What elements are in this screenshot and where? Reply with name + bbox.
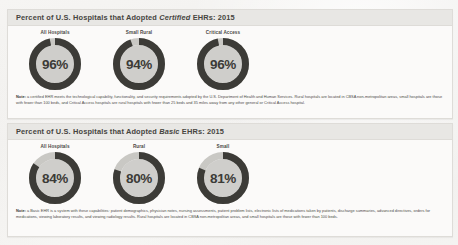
donut-value: 80% <box>112 151 166 205</box>
donut-cell-small-rural-certified: Small Rural 94% <box>106 30 172 91</box>
donut-cell-all-hospitals-certified: All Hospitals 96% <box>22 30 88 91</box>
donut-value: 84% <box>28 151 82 205</box>
panel-certified-title-prefix: Percent of U.S. Hospitals that Adopted <box>16 13 159 22</box>
donut-cell-rural-basic: Rural 80% <box>106 144 172 205</box>
donut-row-certified: All Hospitals 96% Small Rural <box>8 26 452 91</box>
donut-chart: 96% <box>196 37 250 91</box>
note-text: a Basic EHR is a system with these capab… <box>16 208 430 219</box>
note-label: Note: <box>16 94 26 99</box>
page-title-secondary: Percent of U.S. Hospitals that Adopted B… <box>16 127 224 136</box>
panel-basic-title-bar: Percent of U.S. Hospitals that Adopted B… <box>8 124 452 140</box>
panel-basic-title-prefix: Percent of U.S. Hospitals that Adopted <box>16 127 159 136</box>
panel-certified-ehrs: Percent of U.S. Hospitals that Adopted C… <box>7 9 453 119</box>
panel-basic-note: Note: a Basic EHR is a system with these… <box>8 205 452 221</box>
donut-row-basic: All Hospitals 84% Rural <box>8 140 452 205</box>
donut-chart: 84% <box>28 151 82 205</box>
donut-label: All Hospitals <box>40 144 69 149</box>
donut-label: Small <box>217 144 230 149</box>
note-label: Note: <box>16 208 26 213</box>
donut-cell-small-basic: Small 81% <box>190 144 256 205</box>
panel-basic-title-suffix: EHRs: 2015 <box>180 127 224 136</box>
donut-value: 96% <box>28 37 82 91</box>
infographic-sheet: Percent of U.S. Hospitals that Adopted C… <box>4 3 454 242</box>
note-text: a certified EHR meets the technological … <box>16 94 442 105</box>
donut-label: Critical Access <box>206 30 240 35</box>
panel-certified-title-emphasis: Certified <box>159 13 190 22</box>
donut-value: 94% <box>112 37 166 91</box>
donut-cell-critical-access-certified: Critical Access 96% <box>190 30 256 91</box>
donut-chart: 96% <box>28 37 82 91</box>
panel-certified-title-suffix: EHRs: 2015 <box>190 13 234 22</box>
donut-chart: 94% <box>112 37 166 91</box>
panel-certified-title-bar: Percent of U.S. Hospitals that Adopted C… <box>8 10 452 26</box>
donut-value: 81% <box>196 151 250 205</box>
panel-basic-ehrs: Percent of U.S. Hospitals that Adopted B… <box>7 123 453 237</box>
panel-certified-note: Note: a certified EHR meets the technolo… <box>8 91 452 107</box>
donut-label: All Hospitals <box>40 30 69 35</box>
donut-cell-all-hospitals-basic: All Hospitals 84% <box>22 144 88 205</box>
donut-label: Rural <box>133 144 145 149</box>
donut-label: Small Rural <box>126 30 152 35</box>
donut-chart: 80% <box>112 151 166 205</box>
donut-chart: 81% <box>196 151 250 205</box>
panel-basic-title-emphasis: Basic <box>159 127 179 136</box>
donut-value: 96% <box>196 37 250 91</box>
page-title: Percent of U.S. Hospitals that Adopted C… <box>16 13 235 22</box>
